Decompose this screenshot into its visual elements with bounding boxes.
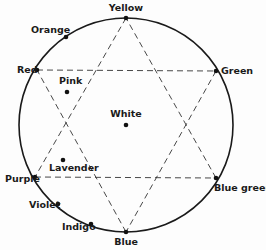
point-purple: Purple bbox=[5, 173, 40, 184]
lavender-label: Lavender bbox=[49, 162, 99, 173]
red-label: Red bbox=[17, 64, 38, 75]
diagram-canvas: YellowOrangeRedGreenPurpleVioletIndigoBl… bbox=[0, 0, 266, 250]
blue-label: Blue bbox=[114, 236, 138, 247]
green-label: Green bbox=[221, 65, 253, 76]
yellow-dot bbox=[124, 16, 129, 21]
orange-dot bbox=[64, 35, 69, 40]
green-dot bbox=[214, 69, 219, 74]
point-white: White bbox=[110, 108, 141, 127]
violet-label: Violet bbox=[29, 199, 61, 210]
point-orange: Orange bbox=[31, 24, 70, 39]
triangle-1-edge bbox=[126, 18, 216, 178]
triangle-2-edge bbox=[37, 70, 216, 71]
triangle-1-edge bbox=[35, 177, 216, 178]
purple-label: Purple bbox=[5, 173, 40, 184]
point-violet: Violet bbox=[29, 199, 61, 210]
orange-label: Orange bbox=[31, 24, 70, 35]
triangle-2-edge bbox=[126, 71, 216, 232]
point-indigo: Indigo bbox=[62, 221, 96, 232]
pink-dot bbox=[65, 90, 70, 95]
triangle-1-edge bbox=[35, 18, 126, 177]
blue-green-label: Blue green bbox=[214, 182, 266, 193]
white-label: White bbox=[110, 108, 141, 119]
point-pink: Pink bbox=[59, 75, 83, 94]
blue-green-dot bbox=[214, 176, 219, 181]
indigo-label: Indigo bbox=[62, 221, 96, 232]
blue-dot bbox=[124, 230, 129, 235]
point-red: Red bbox=[17, 64, 39, 75]
pink-label: Pink bbox=[59, 75, 83, 86]
point-lavender: Lavender bbox=[49, 158, 99, 173]
point-yellow: Yellow bbox=[108, 2, 143, 20]
color-wheel-diagram: YellowOrangeRedGreenPurpleVioletIndigoBl… bbox=[0, 0, 266, 250]
white-dot bbox=[124, 123, 129, 128]
yellow-label: Yellow bbox=[108, 2, 143, 13]
point-blue-green: Blue green bbox=[214, 176, 266, 193]
